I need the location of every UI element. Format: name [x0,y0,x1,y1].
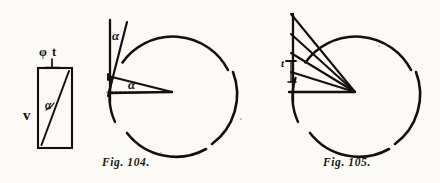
figure-drawing-canvas [0,0,440,183]
scan-speck [378,45,380,47]
scan-speck [240,118,242,120]
fig104-group [107,20,237,157]
fig105-circle-arc-upper [306,37,412,70]
fig105-ray-1 [291,14,355,92]
caption-fig-105: Fig. 105. [323,157,371,169]
caption-fig-104: Fig. 104. [102,157,150,169]
fig105-circle-arc-bottom [310,133,389,157]
velocity-rectangle-group [38,59,72,148]
fig104-circle-arc-upper [123,37,229,70]
fig105-ray-3 [291,53,355,92]
fig104-wedge-lower-ray [109,92,172,93]
alpha-label-fig104-tangent: α [112,29,119,42]
alpha-label-left-figure: α [45,100,51,112]
fig104-circle-arc-right [212,72,237,144]
alpha-label-fig104-center: α [128,78,135,91]
fig105-ray-2 [291,34,355,92]
fig104-wedge-upper-ray [108,76,172,92]
fig105-group [286,14,420,157]
fig104-circle-arc-bottom [127,133,206,157]
t-label-fig105: t [281,58,284,69]
scan-speck [160,152,162,153]
scanned-figure-page: φ t v α α α t Fig. 104. Fig. 105. [0,0,440,183]
phi-t-label: φ t [39,46,57,59]
fig105-circle-arc-right [395,72,420,144]
velocity-label: v [23,108,31,123]
